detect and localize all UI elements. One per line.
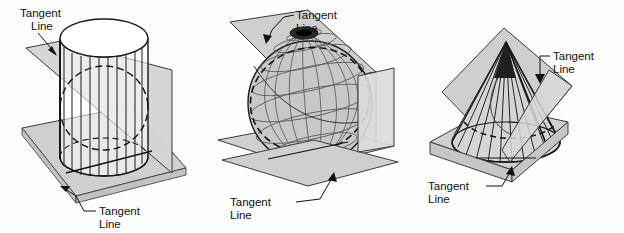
cone-bottom-label-line2: Line [428,193,450,205]
cone-diagram: Tangent Line Tangent Line [416,0,624,233]
sphere-top-label-line2: Line [296,22,318,34]
cone-bottom-label-line1: Tangent [428,180,470,192]
cylinder-top-label-line2: Line [31,20,53,32]
tangent-planes-figure: Tangent Line Tangent Line [0,0,624,233]
cylinder-top-label-line1: Tangent [20,7,62,19]
cone-top-label-line1: Tangent [553,50,595,62]
sphere-bottom-label-line2: Line [230,209,252,221]
panel-sphere: Tangent Line Tangent Line [208,0,416,233]
cylinder-top-rim [60,19,148,57]
cone-top-label-line2: Line [553,63,575,75]
sphere-tilted-plane-front-flap [358,68,394,152]
cylinder-bottom-label-line2: Line [99,218,121,230]
panel-cone: Tangent Line Tangent Line [416,0,624,233]
sphere-diagram: Tangent Line Tangent Line [208,0,416,233]
cylinder-bottom-label-line1: Tangent [99,205,141,217]
sphere-top-label-line1: Tangent [296,9,338,21]
sphere-bottom-label-line1: Tangent [230,196,272,208]
panel-cylinder: Tangent Line Tangent Line [0,0,208,233]
cylinder-diagram: Tangent Line Tangent Line [0,0,208,233]
